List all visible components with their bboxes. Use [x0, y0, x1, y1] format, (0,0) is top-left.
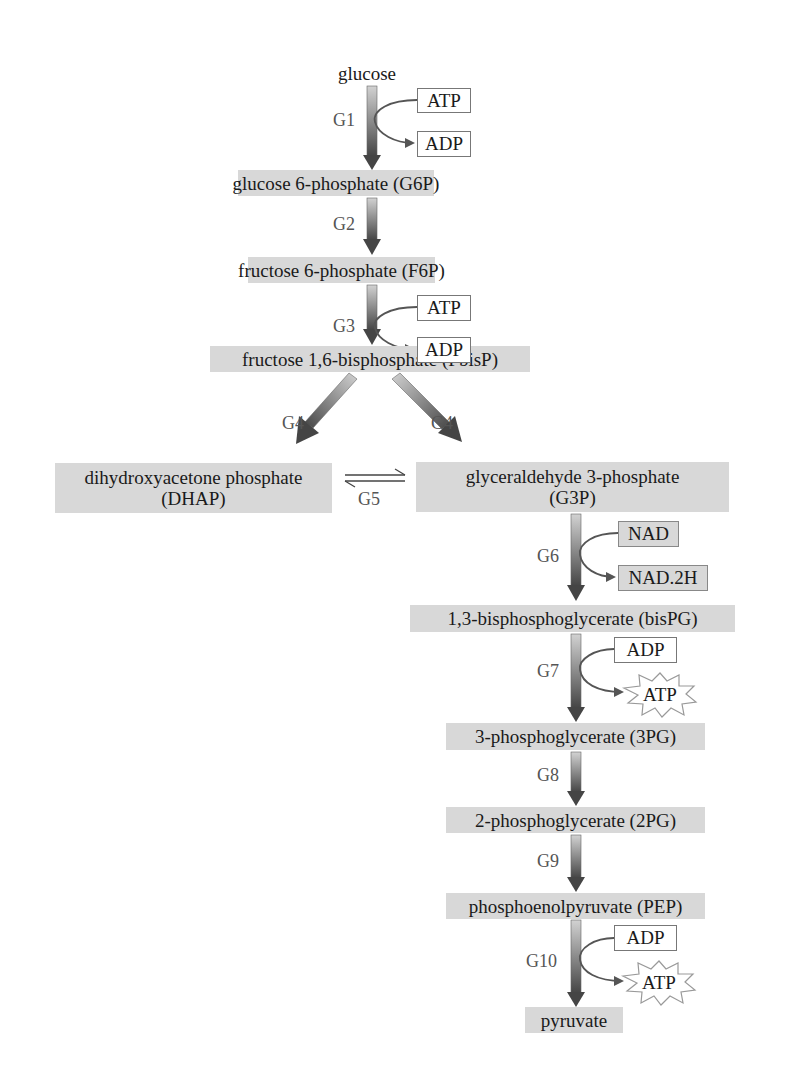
step-label-g3: G3	[333, 316, 355, 337]
metabolite-3pg-label: 3-phosphoglycerate (3PG)	[475, 726, 676, 747]
metabolite-g3p: glyceraldehyde 3-phosphate (G3P)	[416, 462, 729, 512]
cofactor-nad2h-out-g6: NAD.2H	[618, 565, 708, 591]
metabolite-g3p-line1: glyceraldehyde 3-phosphate	[466, 466, 680, 487]
cofactor-nad-in-g6: NAD	[618, 521, 679, 547]
metabolite-bispg-label: 1,3-bisphosphoglycerate (bisPG)	[447, 608, 697, 629]
metabolite-pep-label: phosphoenolpyruvate (PEP)	[469, 896, 683, 917]
metabolite-dhap-line1: dihydroxyacetone phosphate	[85, 467, 303, 488]
metabolite-pep: phosphoenolpyruvate (PEP)	[446, 893, 705, 919]
cofactor-adp-in-g10: ADP	[614, 925, 677, 951]
metabolite-dhap-line2: (DHAP)	[161, 488, 225, 509]
metabolite-pyruvate-label: pyruvate	[541, 1010, 607, 1031]
metabolite-glucose: glucose	[338, 63, 396, 85]
metabolite-dhap: dihydroxyacetone phosphate (DHAP)	[55, 463, 332, 513]
arrow-g4-left	[296, 373, 357, 444]
metabolite-fbisp: fructose 1,6-bisphosphate (FbisP)	[210, 346, 530, 372]
cofactor-atp-in-g1: ATP	[417, 88, 471, 113]
arrow-g6	[567, 514, 585, 601]
metabolite-g6p-label: glucose 6-phosphate (G6P)	[233, 173, 440, 194]
metabolite-pyruvate: pyruvate	[525, 1007, 623, 1033]
cofactor-curve-g6	[580, 533, 618, 577]
cofactor-curve-g3	[375, 307, 417, 349]
metabolite-2pg: 2-phosphoglycerate (2PG)	[446, 807, 705, 833]
step-label-g4-right: G4	[431, 413, 453, 434]
cofactor-adp-out-g1: ADP	[417, 131, 471, 157]
metabolite-g3p-line2: (G3P)	[549, 487, 595, 508]
cofactor-atp-in-g3: ATP	[417, 295, 471, 321]
metabolite-f6p: fructose 6-phosphate (F6P)	[248, 257, 435, 283]
cofactor-atp-out-g7: ATP	[630, 683, 690, 707]
step-label-g9: G9	[537, 851, 559, 872]
arrow-g10	[567, 920, 585, 1007]
arrow-g8	[567, 752, 585, 806]
cofactor-curve-g1	[375, 100, 417, 143]
step-label-g5: G5	[358, 489, 380, 510]
cofactor-atp-out-g10: ATP	[629, 971, 689, 995]
step-label-g8: G8	[537, 765, 559, 786]
step-label-g6: G6	[537, 546, 559, 567]
step-label-g7: G7	[537, 661, 559, 682]
metabolite-2pg-label: 2-phosphoglycerate (2PG)	[475, 810, 676, 831]
step-label-g1: G1	[333, 110, 355, 131]
cofactor-adp-out-g3: ADP	[417, 337, 471, 363]
step-label-g10: G10	[526, 951, 557, 972]
arrow-g2	[363, 198, 381, 255]
arrow-g9	[567, 835, 585, 892]
step-label-g4-left: G4	[282, 413, 304, 434]
equilibrium-arrows-g5	[345, 469, 405, 487]
metabolite-bispg: 1,3-bisphosphoglycerate (bisPG)	[410, 605, 735, 632]
metabolite-3pg: 3-phosphoglycerate (3PG)	[446, 723, 705, 750]
metabolite-g6p: glucose 6-phosphate (G6P)	[238, 170, 434, 196]
cofactor-adp-in-g7: ADP	[614, 637, 677, 663]
step-label-g2: G2	[333, 214, 355, 235]
metabolite-f6p-label: fructose 6-phosphate (F6P)	[238, 260, 445, 281]
